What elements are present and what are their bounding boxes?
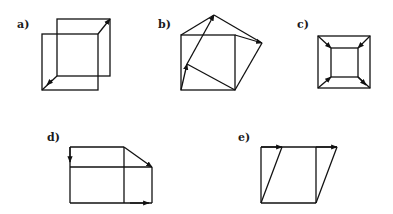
- arrow-right: [235, 35, 262, 43]
- figure-d-label: d): [47, 131, 60, 144]
- arrow-diagonal: [124, 147, 152, 167]
- diagram-canvas: a) b) c) d): [0, 0, 393, 214]
- arrow-bottom-left: [47, 80, 52, 85]
- figure-b: b): [158, 15, 262, 90]
- inner-square: [331, 48, 358, 77]
- edge-apex-right: [214, 15, 262, 43]
- square: [181, 35, 235, 90]
- figure-e: e): [238, 131, 337, 203]
- figure-d: d): [47, 131, 152, 203]
- arrow-bl: [318, 77, 331, 88]
- figure-e-label: e): [238, 131, 250, 144]
- arrow-tr: [358, 36, 370, 48]
- edge-inner-bottom: [187, 64, 235, 90]
- figure-b-label: b): [158, 18, 171, 31]
- arrow-inner: [181, 64, 187, 90]
- figure-a: a): [17, 18, 110, 90]
- back-square: [57, 19, 110, 76]
- arrow-top-right: [98, 19, 110, 34]
- arrow-br: [358, 77, 366, 85]
- figure-c: c): [297, 18, 370, 88]
- arrow-tl: [318, 36, 331, 48]
- left-slant: [261, 147, 282, 203]
- figure-c-label: c): [297, 18, 309, 31]
- figure-a-label: a): [17, 18, 29, 31]
- right-slant: [316, 147, 337, 203]
- arrow-apex: [187, 15, 214, 64]
- edge-right-bottom: [235, 43, 262, 90]
